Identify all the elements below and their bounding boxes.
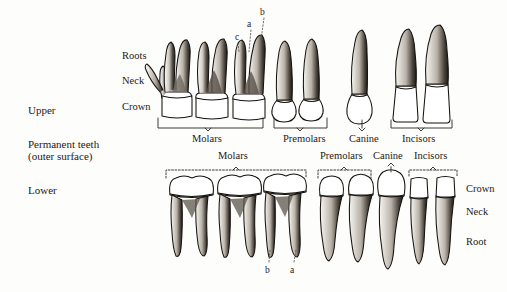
upper-incisor-1 bbox=[393, 29, 418, 122]
upper-incisor-2 bbox=[423, 25, 450, 123]
lower-molar-3 bbox=[264, 174, 307, 257]
upper-premolar-1 bbox=[272, 41, 296, 122]
upper-molar-1 bbox=[145, 40, 192, 118]
lower-molar-1 bbox=[170, 176, 214, 256]
lower-canine bbox=[378, 170, 405, 269]
teeth-illustration bbox=[0, 0, 507, 292]
upper-premolar-2 bbox=[299, 39, 323, 121]
permanent-teeth-figure: Upper Permanent teeth (outer surface) Lo… bbox=[0, 0, 507, 292]
lower-premolar-1 bbox=[320, 176, 344, 261]
lower-group-brackets bbox=[166, 166, 457, 178]
lower-incisor-2 bbox=[436, 177, 455, 266]
lower-bracket-ticks bbox=[233, 163, 436, 170]
lower-incisor-1 bbox=[410, 178, 428, 265]
upper-canine bbox=[347, 30, 372, 124]
lower-molar-2 bbox=[218, 175, 262, 257]
upper-molar-2 bbox=[196, 39, 228, 119]
lower-premolar-2 bbox=[349, 174, 374, 262]
